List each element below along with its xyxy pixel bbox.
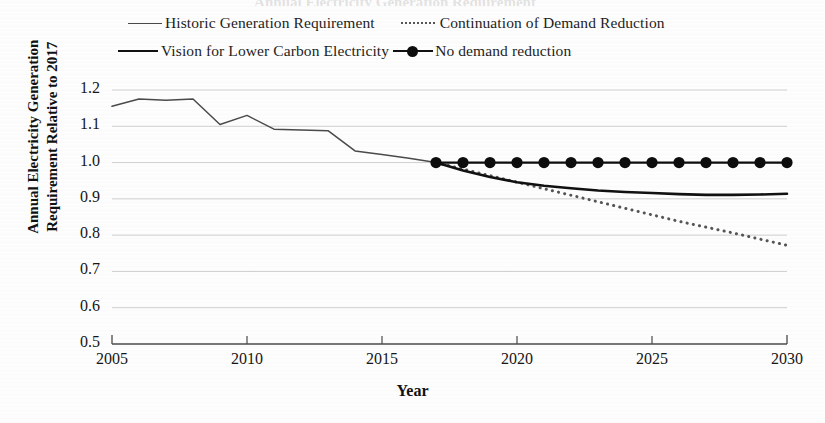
data-point-marker (619, 157, 630, 168)
data-point-marker (646, 157, 657, 168)
data-point-marker (484, 157, 495, 168)
x-tick-label: 2015 (347, 350, 417, 368)
data-series-group (112, 99, 793, 245)
series-continuation-of-demand-reduction (436, 163, 787, 246)
y-axis-title-line-1: Annual Electricity Generation (25, 40, 41, 234)
data-point-marker (727, 157, 738, 168)
data-point-marker (700, 157, 711, 168)
plot-area: 1.21.11.00.90.80.70.60.5 200520102015202… (0, 0, 825, 423)
series-historic-generation-requirement (112, 99, 436, 163)
y-axis-title-line-2: Requirement Relative to 2017 (44, 42, 60, 232)
data-point-marker (673, 157, 684, 168)
series-no-demand-reduction (430, 157, 792, 168)
axis-lines-group (112, 335, 787, 344)
y-tick-label: 1.0 (60, 152, 100, 170)
y-tick-label: 0.6 (60, 297, 100, 315)
data-point-marker (592, 157, 603, 168)
data-point-marker (538, 157, 549, 168)
data-point-marker (430, 157, 441, 168)
x-tick-label: 2020 (482, 350, 552, 368)
gridlines-group (112, 90, 787, 308)
x-tick-label: 2030 (752, 350, 822, 368)
y-tick-label: 1.2 (60, 79, 100, 97)
y-tick-label: 0.7 (60, 260, 100, 278)
data-point-marker (457, 157, 468, 168)
x-axis-title: Year (0, 382, 825, 400)
x-tick-label: 2025 (617, 350, 687, 368)
data-point-marker (781, 157, 792, 168)
y-tick-label: 0.5 (60, 333, 100, 351)
y-tick-label: 0.9 (60, 188, 100, 206)
y-tick-label: 1.1 (60, 115, 100, 133)
y-axis-title: Annual Electricity Generation Requiremen… (24, 12, 62, 262)
chart-figure: Annual Electricity Generation Requiremen… (0, 0, 825, 423)
x-tick-label: 2005 (77, 350, 147, 368)
y-tick-label: 0.8 (60, 224, 100, 242)
x-tick-label: 2010 (212, 350, 282, 368)
data-point-marker (511, 157, 522, 168)
data-point-marker (754, 157, 765, 168)
data-point-marker (565, 157, 576, 168)
tick-marks-group (247, 336, 652, 344)
